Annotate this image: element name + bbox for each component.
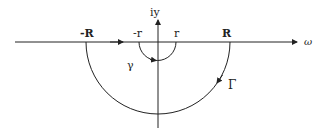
- label-iy: iy: [150, 6, 161, 19]
- label-neg-r: -r: [133, 27, 143, 40]
- label-pos-R: R: [222, 27, 232, 40]
- label-small-gamma: γ: [127, 59, 134, 72]
- large-contour-arrow: [217, 75, 223, 83]
- label-large-gamma: Γ: [228, 78, 236, 92]
- label-pos-r: r: [174, 27, 180, 40]
- contour-diagram: iy ω -R R -r r γ Γ: [0, 0, 327, 133]
- label-omega: ω: [304, 36, 312, 47]
- label-neg-R: -R: [80, 27, 95, 40]
- small-contour-arrow: [150, 60, 156, 61]
